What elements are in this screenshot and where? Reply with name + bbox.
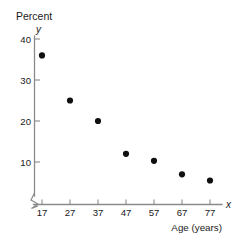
y-tick-label-20: 20 [20, 116, 31, 127]
x-axis-symbol: x [225, 199, 232, 210]
chart-canvas: Percent y x 40 30 20 10 17 27 37 47 57 6… [0, 0, 242, 245]
y-tick-label-40: 40 [20, 34, 31, 45]
x-tick-label-57: 57 [149, 207, 160, 218]
y-tick-label-10: 10 [20, 157, 31, 168]
y-tick-label-30: 30 [20, 75, 31, 86]
data-point [67, 97, 73, 103]
x-tick-label-27: 27 [65, 207, 76, 218]
data-point [39, 52, 45, 58]
x-tick-label-47: 47 [121, 207, 132, 218]
data-point [95, 118, 101, 124]
data-point [151, 158, 157, 164]
data-point [207, 177, 213, 183]
x-tick-label-67: 67 [177, 207, 188, 218]
data-point [179, 171, 185, 177]
x-tick-label-17: 17 [37, 207, 48, 218]
scatter-plot-figure: Percent y x 40 30 20 10 17 27 37 47 57 6… [0, 0, 242, 245]
data-point [123, 151, 129, 157]
x-tick-label-37: 37 [93, 207, 104, 218]
x-tick-label-77: 77 [205, 207, 216, 218]
chart-header-label: Percent [16, 10, 52, 22]
x-axis-title: Age (years) [171, 222, 222, 233]
y-axis-symbol: y [35, 24, 42, 35]
